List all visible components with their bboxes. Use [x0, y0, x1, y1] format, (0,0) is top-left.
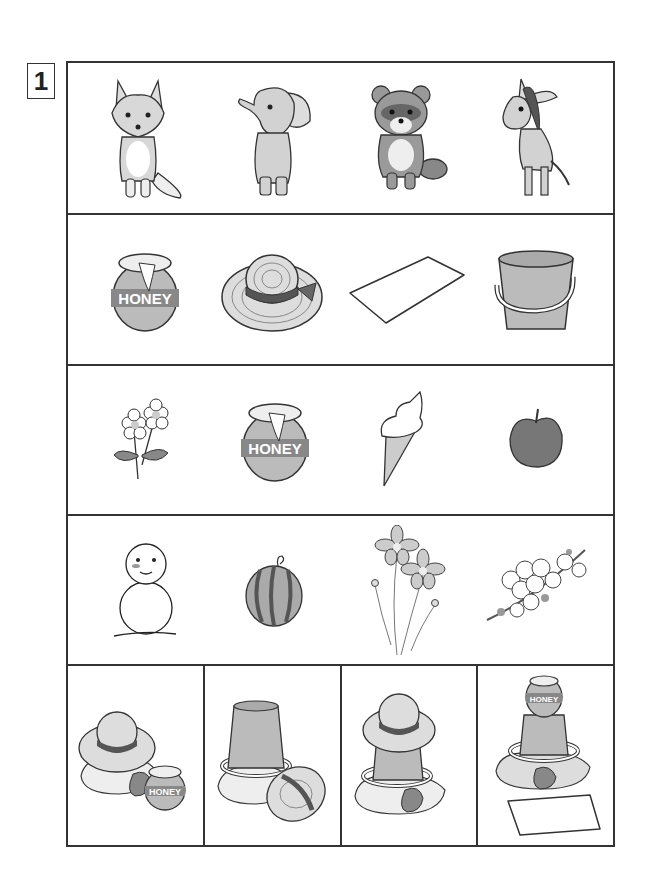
svg-text:HONEY: HONEY [249, 440, 302, 457]
flowers-item[interactable]: flowers [85, 370, 205, 510]
ice-cream-icon [376, 390, 436, 490]
honey-jar-item-2[interactable]: honey jar HONEY [215, 370, 335, 510]
straw-hat-icon [220, 245, 330, 335]
apple-item[interactable]: apple [476, 370, 596, 510]
scene-3[interactable]: hat on bucket on rocks [340, 666, 477, 845]
scene-honey-bucket-towel-icon: HONEY [486, 671, 606, 841]
svg-text:HONEY: HONEY [118, 290, 171, 307]
fox-item[interactable]: fox [85, 68, 205, 208]
honey-jar-icon: HONEY [105, 245, 185, 335]
elephant-icon [230, 73, 320, 203]
donkey-icon [491, 73, 581, 203]
question-number: 1 [27, 63, 55, 99]
watermelon-icon [240, 550, 310, 630]
apple-icon [506, 405, 566, 475]
towel-icon [346, 245, 466, 335]
bucket-icon [491, 245, 581, 335]
scene-hat-on-bucket-icon [349, 686, 469, 826]
straw-hat-item[interactable]: straw hat [215, 220, 335, 360]
svg-text:HONEY: HONEY [149, 787, 181, 797]
cherry-blossom-icon [481, 540, 591, 640]
ice-cream-item[interactable]: ice cream cone [346, 370, 466, 510]
raccoon-dog-icon [361, 73, 451, 203]
scene-hat-honey-icon: HONEY [75, 696, 195, 816]
elephant-item[interactable]: elephant [215, 68, 335, 208]
watermelon-item[interactable]: watermelon [215, 520, 335, 660]
row-objects: honey jar HONEY straw hat [68, 213, 613, 364]
snowman-item[interactable]: snowman [85, 520, 205, 660]
fox-icon [100, 73, 190, 203]
scene-1[interactable]: hat on rocks with honey jar HONEY [68, 666, 203, 845]
row-scenes: hat on rocks with honey jar HONEY bucket… [68, 664, 613, 845]
scene-2[interactable]: bucket on rocks with hat [203, 666, 340, 845]
cosmos-flower-icon [361, 525, 451, 655]
honey-jar-item[interactable]: honey jar HONEY [85, 220, 205, 360]
towel-item[interactable]: towel [346, 220, 466, 360]
worksheet-frame: fox elephant [66, 61, 615, 847]
row-seasons: snowman watermelon [68, 514, 613, 664]
snowman-icon [110, 540, 180, 640]
donkey-item[interactable]: donkey [476, 68, 596, 208]
bucket-item[interactable]: bucket [476, 220, 596, 360]
cherry-blossom-item[interactable]: cherry blossoms [476, 520, 596, 660]
scene-bucket-hat-icon [212, 686, 332, 826]
flowers-icon [110, 395, 180, 485]
svg-text:HONEY: HONEY [529, 695, 558, 704]
row-foods-flowers: flowers honey jar [68, 364, 613, 514]
scene-4[interactable]: honey on bucket on rocks with towel HONE… [476, 666, 613, 845]
raccoon-dog-item[interactable]: raccoon dog [346, 68, 466, 208]
row-animals: fox elephant [68, 63, 613, 213]
cosmos-item[interactable]: cosmos flowers [346, 520, 466, 660]
honey-jar-icon: HONEY [235, 395, 315, 485]
